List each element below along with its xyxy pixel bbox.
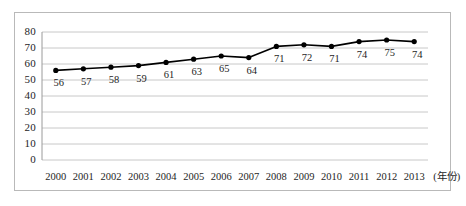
data-point-label: 72 bbox=[297, 52, 317, 63]
data-point-label: 56 bbox=[49, 77, 69, 88]
data-point-label: 65 bbox=[214, 63, 234, 74]
data-point-marker bbox=[53, 68, 58, 73]
data-point-marker bbox=[356, 39, 361, 44]
y-axis-tick-label: 60 bbox=[14, 58, 36, 69]
data-point-marker bbox=[136, 63, 141, 68]
data-point-marker bbox=[384, 37, 389, 42]
data-point-label: 74 bbox=[407, 49, 427, 60]
data-point-marker bbox=[191, 57, 196, 62]
data-point-marker bbox=[412, 39, 417, 44]
data-point-label: 57 bbox=[76, 76, 96, 87]
data-point-label: 63 bbox=[187, 66, 207, 77]
data-point-marker bbox=[163, 60, 168, 65]
y-axis-tick-label: 40 bbox=[14, 90, 36, 101]
data-point-label: 61 bbox=[159, 69, 179, 80]
y-axis-tick-label: 80 bbox=[14, 26, 36, 37]
data-point-marker bbox=[108, 65, 113, 70]
data-point-marker bbox=[301, 42, 306, 47]
data-point-label: 74 bbox=[352, 49, 372, 60]
data-point-label: 64 bbox=[242, 65, 262, 76]
y-axis-tick-label: 0 bbox=[14, 154, 36, 165]
data-point-label: 59 bbox=[132, 73, 152, 84]
data-point-marker bbox=[246, 55, 251, 60]
y-axis-tick-label: 10 bbox=[14, 138, 36, 149]
x-axis-title: (年份) bbox=[433, 171, 460, 182]
data-point-marker bbox=[219, 53, 224, 58]
y-axis-tick-label: 30 bbox=[14, 106, 36, 117]
data-point-label: 71 bbox=[325, 53, 345, 64]
data-point-label: 58 bbox=[104, 74, 124, 85]
y-axis-tick-label: 20 bbox=[14, 122, 36, 133]
data-point-label: 75 bbox=[380, 47, 400, 58]
data-point-label: 71 bbox=[269, 53, 289, 64]
y-axis-tick-label: 70 bbox=[14, 42, 36, 53]
data-point-marker bbox=[81, 66, 86, 71]
chart-figure: 01020304050607080 2000200120022003200420… bbox=[0, 0, 466, 206]
data-point-marker bbox=[329, 44, 334, 49]
data-point-marker bbox=[274, 44, 279, 49]
x-axis-tick-label: 2013 bbox=[397, 171, 431, 182]
y-axis-tick-label: 50 bbox=[14, 74, 36, 85]
